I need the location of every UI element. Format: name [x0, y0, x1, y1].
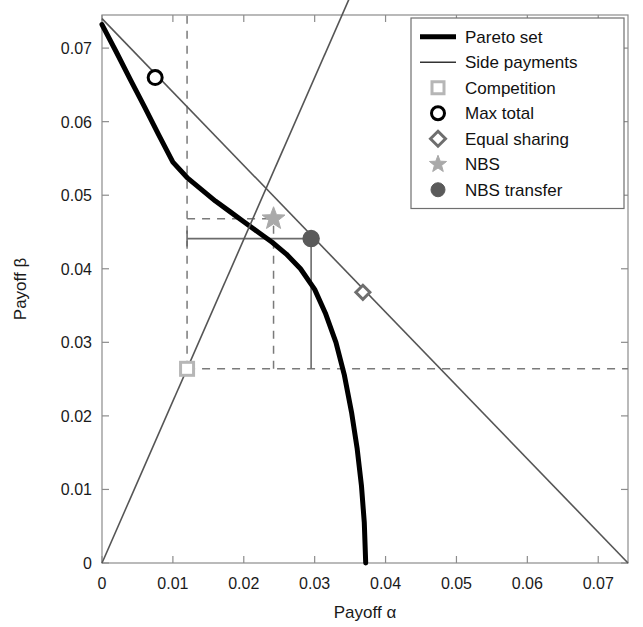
y-tick-label: 0.01 [61, 481, 92, 498]
x-tick-label: 0.06 [512, 575, 543, 592]
y-tick-label: 0.02 [61, 408, 92, 425]
legend-glyph-max-total [432, 107, 445, 120]
x-tick-label: 0.03 [299, 575, 330, 592]
y-tick-label: 0.07 [61, 40, 92, 57]
x-tick-label: 0 [98, 575, 107, 592]
y-tick-label: 0.04 [61, 261, 92, 278]
legend-label-nbs: NBS [465, 155, 500, 174]
x-tick-label: 0.07 [583, 575, 614, 592]
x-tick-label: 0.01 [157, 575, 188, 592]
legend-label-max-total: Max total [465, 104, 534, 123]
marker-competition [181, 362, 194, 375]
y-tick-label: 0.06 [61, 114, 92, 131]
x-tick-label: 0.05 [441, 575, 472, 592]
legend-label-pareto-set: Pareto set [465, 28, 543, 47]
legend-label-equal-sharing: Equal sharing [465, 130, 569, 149]
marker-max-total [148, 71, 162, 85]
x-tick-label: 0.04 [370, 575, 401, 592]
y-tick-label: 0.05 [61, 187, 92, 204]
x-tick-label: 0.02 [228, 575, 259, 592]
chart-canvas: 00.010.020.030.040.050.060.0700.010.020.… [0, 0, 643, 627]
y-tick-label: 0 [83, 555, 92, 572]
chart-figure: 00.010.020.030.040.050.060.0700.010.020.… [0, 0, 643, 627]
x-axis-label: Payoff α [334, 603, 397, 622]
legend-label-nbs-transfer: NBS transfer [465, 181, 563, 200]
marker-nbs-transfer [303, 231, 319, 247]
legend-glyph-nbs-transfer [431, 183, 445, 197]
legend-label-side-payments: Side payments [465, 53, 577, 72]
y-tick-label: 0.03 [61, 334, 92, 351]
legend-label-competition: Competition [465, 79, 556, 98]
y-axis-label: Payoff β [11, 258, 30, 321]
legend-glyph-competition [432, 82, 444, 94]
